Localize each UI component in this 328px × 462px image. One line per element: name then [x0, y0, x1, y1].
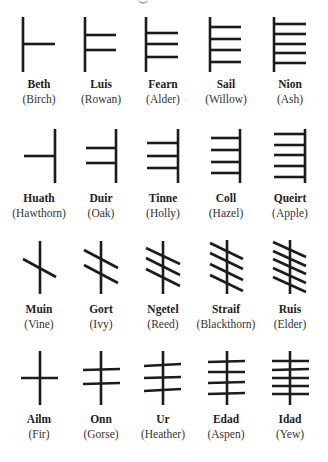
ogham-glyph-gort-icon [84, 241, 118, 294]
letter-name: Sail [195, 78, 257, 91]
ogham-row-3 [23, 240, 306, 294]
letter-name: Queirt [259, 192, 321, 205]
letter-name: Tinne [132, 192, 194, 205]
ogham-glyph-layer [0, 0, 328, 462]
ogham-glyph-fearn-icon [146, 17, 178, 72]
ogham-glyph-huath-icon [24, 129, 55, 183]
glyph-stroke [144, 377, 181, 378]
ogham-glyph-edad-icon [208, 351, 245, 405]
glyph-stroke [208, 382, 245, 383]
ogham-glyph-coll-icon [211, 129, 240, 183]
ogham-glyph-onn-icon [83, 351, 120, 405]
letter-name: Beth [8, 78, 70, 91]
letter-name: Ailm [8, 413, 70, 426]
letter-name: Idad [259, 413, 321, 426]
ogham-glyph-luis-icon [85, 17, 116, 72]
ogham-glyph-straif-icon [210, 240, 243, 294]
glyph-stroke [208, 393, 245, 394]
ogham-glyph-duir-icon [86, 129, 116, 183]
tree-name: (Yew) [249, 428, 328, 441]
letter-name: Onn [70, 413, 132, 426]
ogham-glyph-beth-icon [23, 17, 55, 72]
glyph-stroke [83, 383, 120, 384]
tree-name: (Apple) [249, 207, 328, 220]
ogham-glyph-muin-icon [23, 241, 56, 294]
letter-name: Ur [132, 413, 194, 426]
glyph-stroke [144, 364, 181, 366]
ogham-glyph-ngetel-icon [146, 241, 180, 294]
letter-name: Straif [195, 303, 257, 316]
letter-name: Luis [70, 78, 132, 91]
ogham-row-2 [24, 129, 305, 183]
letter-name: Fearn [132, 78, 194, 91]
glyph-stroke [208, 361, 245, 362]
glyph-stroke [272, 369, 309, 370]
glyph-stroke [83, 369, 120, 370]
letter-name: Ngetel [132, 303, 194, 316]
letter-name: Ruis [259, 303, 321, 316]
ogham-glyph-tinne-icon [147, 129, 178, 183]
ogham-glyph-ruis-icon [273, 240, 306, 294]
ogham-row-4 [21, 351, 309, 405]
ogham-glyph-idad-icon [272, 351, 309, 405]
letter-name: Gort [70, 303, 132, 316]
letter-name: Edad [195, 413, 257, 426]
ogham-alphabet-figure: Beth (Birch) Luis (Rowan) Fearn (Alder) … [0, 0, 328, 462]
ogham-glyph-ur-icon [144, 351, 181, 405]
ogham-glyph-nion-icon [274, 17, 306, 72]
tree-name: (Ash) [249, 93, 328, 106]
ogham-glyph-queirt-icon [274, 129, 305, 183]
letter-name: Duir [70, 192, 132, 205]
letter-name: Huath [8, 192, 70, 205]
letter-name: Coll [195, 192, 257, 205]
ogham-glyph-sail-icon [210, 17, 241, 72]
tree-name: (Elder) [249, 318, 328, 331]
ogham-glyph-ailm-icon [21, 351, 58, 405]
letter-name: Nion [259, 78, 321, 91]
letter-name: Muin [8, 303, 70, 316]
ogham-row-1 [23, 17, 306, 72]
glyph-stroke [144, 389, 181, 391]
